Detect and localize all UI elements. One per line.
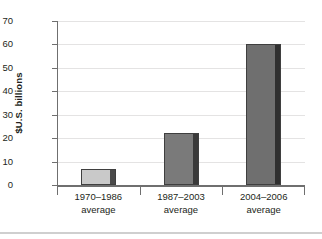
category-band-top-rule — [57, 186, 305, 187]
y-axis-title: $U.S. billions — [13, 53, 27, 153]
y-axis-tick — [52, 138, 57, 139]
category-label-range: 1987–2003 — [140, 191, 223, 204]
bar — [246, 44, 281, 185]
plot-inner — [57, 21, 305, 185]
category-label-range: 2004–2006 — [222, 191, 305, 204]
category-label-qualifier: average — [222, 204, 305, 217]
figure-bottom-rule — [0, 232, 322, 234]
y-axis-tick — [52, 115, 57, 116]
category-label: 1970–1986average — [57, 191, 140, 216]
bar-right-edge-shading — [110, 170, 115, 184]
y-axis-tick-label: 50 — [0, 63, 13, 73]
y-axis-tick-label: 0 — [0, 180, 13, 190]
y-axis-tick — [52, 21, 57, 22]
category-label-range: 1970–1986 — [57, 191, 140, 204]
gridline — [57, 21, 305, 22]
bar-right-edge-shading — [275, 45, 280, 184]
y-axis-tick-label: 10 — [0, 157, 13, 167]
y-axis-tick — [52, 91, 57, 92]
category-label: 2004–2006average — [222, 191, 305, 216]
y-axis-tick-label: 30 — [0, 110, 13, 120]
y-axis-tick — [52, 68, 57, 69]
y-axis-tick-label: 70 — [0, 16, 13, 26]
y-axis-tick-label: 60 — [0, 39, 13, 49]
y-axis-tick-label: 40 — [0, 86, 13, 96]
y-axis-tick — [52, 44, 57, 45]
bar-chart-figure: $U.S. billions 010203040506070 1970–1986… — [0, 0, 322, 239]
plot-area — [57, 21, 305, 185]
y-axis-tick — [52, 162, 57, 163]
category-label-qualifier: average — [140, 204, 223, 217]
bar-right-edge-shading — [193, 134, 198, 184]
y-axis-tick-label: 20 — [0, 133, 13, 143]
bar — [164, 133, 199, 185]
y-axis-line — [57, 21, 58, 186]
category-axis-band: 1970–1986average1987–2003average2004–200… — [57, 186, 305, 187]
bar — [81, 169, 116, 185]
category-label-qualifier: average — [57, 204, 140, 217]
category-label: 1987–2003average — [140, 191, 223, 216]
